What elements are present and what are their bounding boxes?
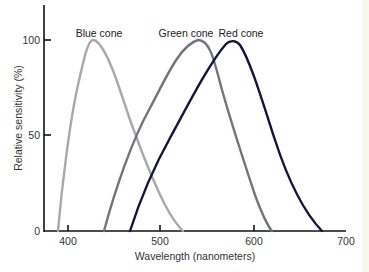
y-tick-label-50: 50 — [28, 129, 40, 141]
y-tick-label-0: 0 — [34, 225, 40, 237]
cone-sensitivity-chart: 100 50 0 400 500 600 700 Wavelength (nan… — [0, 0, 369, 272]
green-cone-curve — [104, 40, 272, 231]
x-axis-title: Wavelength (nanometers) — [135, 250, 255, 262]
x-tick-label-600: 600 — [245, 235, 263, 247]
green-cone-label: Green cone — [159, 27, 214, 39]
red-cone-label: Red cone — [219, 27, 264, 39]
x-tick-label-500: 500 — [151, 235, 169, 247]
y-axis-title: Relative sensitivity (%) — [12, 65, 24, 171]
red-cone-curve — [130, 41, 322, 231]
blue-cone-curve — [58, 40, 183, 231]
x-tick-label-400: 400 — [59, 235, 77, 247]
x-tick-label-700: 700 — [337, 235, 355, 247]
blue-cone-label: Blue cone — [76, 27, 123, 39]
y-tick-label-100: 100 — [22, 34, 40, 46]
